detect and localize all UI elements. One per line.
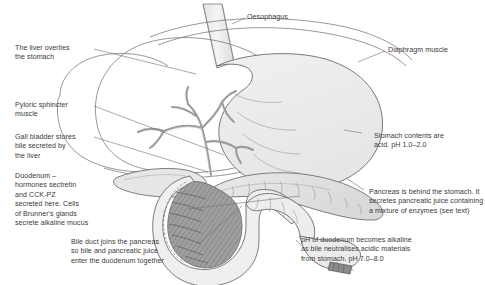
label-gall-bladder: Gall bladder stores bile secreted by the… — [15, 133, 76, 161]
stomach-organ — [217, 54, 383, 191]
label-bile-duct: Bile duct joins the pancreas so bile and… — [71, 238, 164, 266]
label-duodenum: Duodenum – hormones sectretin and CCK-PZ… — [15, 172, 88, 228]
label-oesophagus: Oesophagus — [247, 13, 288, 22]
anatomy-figure: Oesophagus The liver overlies the stomac… — [0, 0, 485, 285]
label-pancreas: Pancreas is behind the stomach. It secre… — [369, 188, 483, 216]
oesophagus-organ — [203, 4, 234, 68]
label-ph-of-duodenum: pH of duodenum becomes alkaline as bile … — [301, 236, 412, 264]
label-stomach-contents-ph: Stomach contents are acid. pH 1.0–2.0 — [374, 132, 444, 151]
label-diaphragm-muscle: Diaphragm muscle — [388, 46, 448, 55]
label-pyloric-sphincter-muscle: Pyloric sphincter muscle — [15, 101, 68, 120]
label-liver-overlies-stomach: The liver overlies the stomach — [15, 44, 70, 63]
